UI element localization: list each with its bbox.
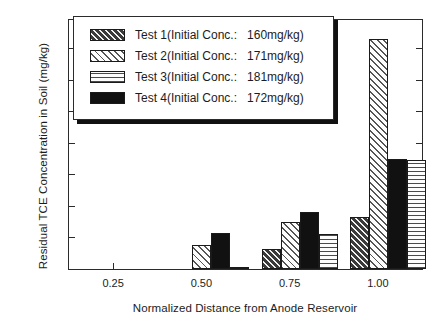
chart-figure: Residual TCE Concentration in Soil (mg/k… [0, 0, 439, 328]
x-axis-tick-label: 0.50 [179, 277, 223, 289]
y-axis-tick-right [416, 143, 422, 144]
y-axis-tick [69, 237, 75, 238]
x-axis-title: Normalized Distance from Anode Reservoir [60, 302, 430, 314]
bar-test-4-1.00 [388, 159, 407, 269]
bar-test-4-0.50 [211, 233, 230, 269]
legend-swatch-icon [90, 71, 125, 83]
legend-item: Test 1(Initial Conc.: 160mg/kg) [90, 24, 333, 45]
bar-test-3-0.50 [230, 267, 249, 269]
y-axis-tick [69, 143, 75, 144]
bar-test-4-0.75 [300, 212, 319, 269]
bar-test-2-1.00 [369, 39, 388, 269]
legend-swatch-icon [90, 92, 125, 104]
y-axis-tick-right [416, 80, 422, 81]
legend-item-label: Test 3(Initial Conc.: 181mg/kg) [135, 70, 304, 84]
y-axis-tick [69, 174, 75, 175]
y-axis-title: Residual TCE Concentration in Soil (mg/k… [37, 26, 49, 286]
y-axis-tick-right [416, 269, 422, 270]
legend-item-label: Test 1(Initial Conc.: 160mg/kg) [135, 28, 304, 42]
bar-test-3-0.75 [319, 234, 338, 269]
x-axis-tick-label: 0.75 [268, 277, 312, 289]
legend-item-label: Test 2(Initial Conc.: 171mg/kg) [135, 49, 304, 63]
legend-item: Test 3(Initial Conc.: 181mg/kg) [90, 66, 333, 87]
y-axis-tick-right [416, 111, 422, 112]
x-axis-tick [113, 263, 114, 269]
bar-test-2-0.75 [281, 222, 300, 269]
x-axis-tick-label: 1.00 [356, 277, 400, 289]
y-axis-tick-right [416, 48, 422, 49]
legend-swatch-icon [90, 50, 125, 62]
y-axis-tick [69, 206, 75, 207]
chart-legend: Test 1(Initial Conc.: 160mg/kg)Test 2(In… [73, 16, 334, 120]
bar-test-1-0.75 [262, 249, 281, 269]
legend-item-label: Test 4(Initial Conc.: 172mg/kg) [135, 91, 304, 105]
legend-item: Test 4(Initial Conc.: 172mg/kg) [90, 87, 333, 108]
bar-test-1-1.00 [350, 217, 369, 269]
x-axis-tick-label: 0.25 [91, 277, 135, 289]
bar-test-3-1.00 [407, 160, 426, 269]
bar-test-2-0.50 [192, 245, 211, 269]
y-axis-tick [69, 269, 75, 270]
legend-swatch-icon [90, 29, 125, 41]
legend-item: Test 2(Initial Conc.: 171mg/kg) [90, 45, 333, 66]
